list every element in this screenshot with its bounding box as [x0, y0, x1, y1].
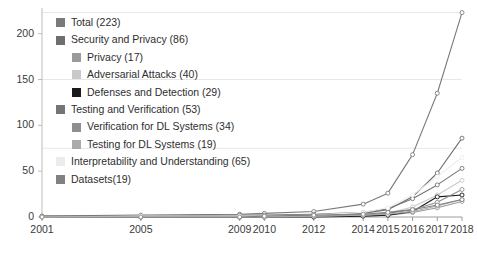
x-axis-tick-label: 2005	[121, 223, 161, 235]
x-axis-tick-label: 2001	[22, 223, 62, 235]
series-marker	[435, 91, 439, 95]
legend-swatch-icon	[56, 175, 65, 184]
series-marker	[40, 215, 44, 219]
series-marker	[411, 153, 415, 157]
legend-item[interactable]: Total (223)	[56, 14, 316, 31]
series-marker	[435, 175, 439, 179]
series-marker	[460, 193, 464, 197]
series-marker	[460, 178, 464, 182]
legend-item-label: Testing and Verification (53)	[71, 101, 201, 118]
legend-swatch-icon	[72, 140, 81, 149]
legend-swatch-icon	[72, 123, 81, 132]
legend-item[interactable]: Defenses and Detection (29)	[72, 84, 316, 101]
legend-item-label: Privacy (17)	[87, 49, 143, 66]
series-marker	[460, 155, 464, 159]
series-marker	[139, 215, 143, 219]
series-marker	[312, 213, 316, 217]
legend-item[interactable]: Verification for DL Systems (34)	[72, 118, 316, 135]
legend-item[interactable]: Security and Privacy (86)	[56, 31, 316, 48]
x-axis-tick-label: 2010	[244, 223, 284, 235]
series-marker	[435, 195, 439, 199]
series-marker	[460, 136, 464, 140]
series-marker	[411, 208, 415, 212]
series-marker	[460, 166, 464, 170]
legend-item-label: Testing for DL Systems (19)	[87, 136, 216, 153]
x-axis-tick-label: 2012	[294, 223, 334, 235]
legend-item-label: Verification for DL Systems (34)	[87, 118, 234, 135]
legend-swatch-icon	[72, 70, 81, 79]
legend-item-label: Security and Privacy (86)	[71, 31, 188, 48]
legend-item-label: Datasets(19)	[71, 171, 131, 188]
legend-swatch-icon	[72, 53, 81, 62]
legend-item[interactable]: Adversarial Attacks (40)	[72, 66, 316, 83]
series-marker	[361, 202, 365, 206]
series-marker	[386, 210, 390, 214]
chart-legend: Total (223)Security and Privacy (86)Priv…	[56, 14, 316, 188]
series-marker	[262, 214, 266, 218]
y-axis-tick-label: 50	[0, 164, 34, 176]
legend-item-label: Adversarial Attacks (40)	[87, 66, 198, 83]
series-marker	[460, 188, 464, 192]
legend-item-label: Interpretability and Understanding (65)	[71, 153, 250, 170]
series-marker	[238, 215, 242, 219]
legend-swatch-icon	[56, 36, 65, 45]
legend-swatch-icon	[56, 18, 65, 27]
series-marker	[386, 206, 390, 210]
y-axis-tick-label: 200	[0, 27, 34, 39]
legend-swatch-icon	[56, 157, 65, 166]
legend-swatch-icon	[72, 88, 81, 97]
series-marker	[361, 212, 365, 216]
series-marker	[411, 193, 415, 197]
legend-item[interactable]: Privacy (17)	[72, 49, 316, 66]
series-marker	[460, 198, 464, 202]
y-axis-tick-label: 150	[0, 73, 34, 85]
legend-item[interactable]: Testing and Verification (53)	[56, 101, 316, 118]
series-marker	[435, 183, 439, 187]
legend-item-label: Defenses and Detection (29)	[87, 84, 221, 101]
legend-item[interactable]: Testing for DL Systems (19)	[72, 136, 316, 153]
legend-item[interactable]: Interpretability and Understanding (65)	[56, 153, 316, 170]
series-marker	[386, 191, 390, 195]
y-axis-tick-label: 100	[0, 118, 34, 130]
legend-item-label: Total (223)	[71, 14, 121, 31]
x-axis-tick-label: 2018	[442, 223, 478, 235]
legend-item[interactable]: Datasets(19)	[56, 171, 316, 188]
legend-swatch-icon	[56, 105, 65, 114]
series-marker	[435, 203, 439, 207]
series-marker	[460, 11, 464, 15]
y-axis-tick-label: 0	[0, 210, 34, 222]
